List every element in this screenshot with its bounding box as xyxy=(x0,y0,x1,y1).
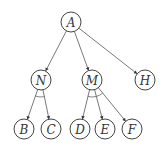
node-label: E xyxy=(100,123,110,137)
node-label: C xyxy=(46,123,55,137)
edge-a-m xyxy=(74,31,88,70)
nodes: ANMHBCDEF xyxy=(14,12,155,139)
node-d: D xyxy=(70,119,90,139)
edge-n-b xyxy=(27,89,37,119)
node-a: A xyxy=(61,12,81,32)
node-m: M xyxy=(82,70,102,90)
and-arc-n-bc xyxy=(35,96,44,97)
node-c: C xyxy=(41,119,61,139)
node-label: N xyxy=(35,74,47,88)
and-arc-m-ef xyxy=(96,93,102,96)
node-label: F xyxy=(127,123,137,137)
node-h: H xyxy=(135,70,155,90)
edge-a-n xyxy=(46,31,67,71)
node-e: E xyxy=(95,119,115,139)
node-label: D xyxy=(74,123,85,137)
node-label: B xyxy=(19,123,29,137)
and-arc-m-de xyxy=(88,96,96,97)
node-label: A xyxy=(66,16,76,30)
and-arcs xyxy=(35,93,102,97)
node-n: N xyxy=(31,70,51,90)
edge-n-c xyxy=(43,90,49,119)
and-or-tree-diagram: ANMHBCDEF xyxy=(0,0,166,153)
node-f: F xyxy=(122,119,142,139)
node-label: M xyxy=(85,74,99,88)
edge-m-d xyxy=(82,90,89,120)
node-b: B xyxy=(14,119,34,139)
node-label: H xyxy=(139,74,151,88)
